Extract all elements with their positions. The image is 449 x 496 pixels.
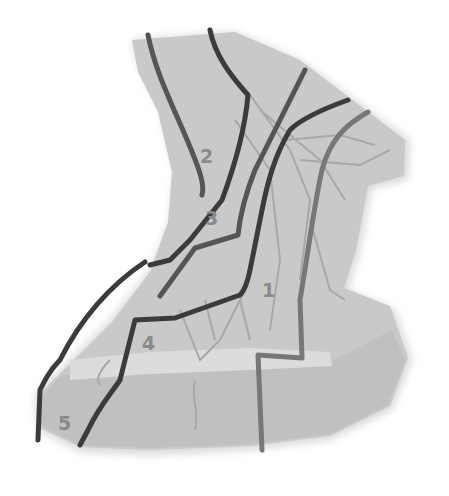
- region-label-4: 4: [142, 332, 155, 354]
- region-label-1: 1: [262, 279, 275, 301]
- neck-anatomy-diagram: 1 2 3 4 5: [0, 0, 449, 496]
- region-label-3: 3: [205, 207, 218, 229]
- region-label-5: 5: [58, 412, 71, 434]
- region-label-2: 2: [200, 145, 213, 167]
